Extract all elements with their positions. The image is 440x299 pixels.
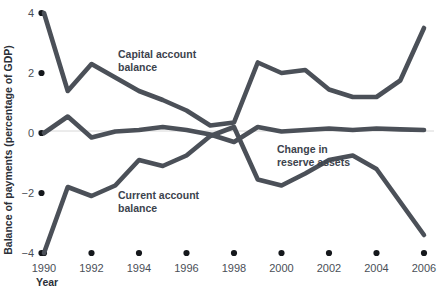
x-tick-label: 1998: [222, 262, 246, 274]
annotation-current-account-line1: Current account: [118, 189, 200, 201]
annotation-current-account-line2: balance: [118, 202, 157, 214]
x-tick-dot: [231, 250, 237, 256]
x-tick-dot: [373, 250, 379, 256]
annotation-capital-account-line2: balance: [118, 61, 157, 73]
x-tick-label: 1996: [174, 262, 198, 274]
x-tick-dot: [421, 250, 427, 256]
x-tick-label: 1990: [32, 262, 56, 274]
x-tick-dot: [278, 250, 284, 256]
annotation-reserve-assets-line1: Change in: [277, 143, 328, 155]
y-tick-dot: [38, 70, 44, 76]
y-axis-title: Balance of payments (percentage of GDP): [2, 45, 14, 254]
x-axis-title: Year: [36, 276, 58, 288]
x-axis-ticks: 199019921994199619982000200220042006: [32, 250, 436, 274]
y-tick-label: 0: [28, 127, 34, 139]
x-tick-dot: [136, 250, 142, 256]
x-tick-dot: [88, 250, 94, 256]
x-tick-label: 2000: [269, 262, 293, 274]
x-tick-label: 1994: [127, 262, 151, 274]
annotation-capital-account-line1: Capital account: [118, 48, 197, 60]
x-tick-label: 2006: [412, 262, 436, 274]
y-tick-dot: [38, 190, 44, 196]
chart-svg: 420−2−4 19901992199419961998200020022004…: [0, 0, 440, 299]
x-tick-dot: [326, 250, 332, 256]
x-tick-label: 2002: [317, 262, 341, 274]
x-tick-dot: [183, 250, 189, 256]
x-tick-label: 1992: [79, 262, 103, 274]
y-tick-label: 4: [28, 7, 34, 19]
y-tick-label: 2: [28, 67, 34, 79]
y-tick-label: −2: [21, 187, 34, 199]
x-tick-label: 2004: [364, 262, 388, 274]
balance-of-payments-chart: 420−2−4 19901992199419961998200020022004…: [0, 0, 440, 299]
annotation-reserve-assets-line2: reserve assets: [277, 156, 350, 168]
y-tick-label: −4: [21, 247, 34, 259]
